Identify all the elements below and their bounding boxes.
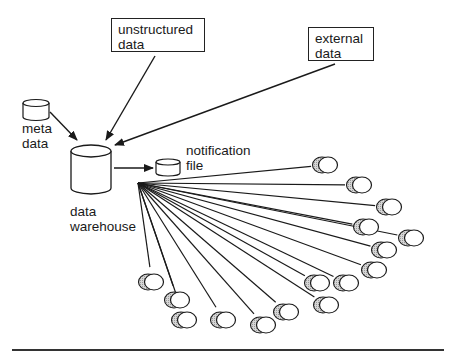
disk-pair-icon (211, 312, 236, 328)
disk-pair-icon (362, 262, 387, 278)
data-warehouse-label: data warehouse (70, 204, 136, 234)
external-data-box: external data (308, 27, 374, 61)
disk-pair-icon (399, 230, 424, 246)
disk-pair-icon (372, 242, 397, 258)
disk-pair-icon (251, 317, 276, 333)
arrow-unstructured-to-warehouse (106, 56, 155, 140)
disk-pair-icon (139, 274, 164, 290)
meta-data-cylinder-icon (23, 100, 49, 121)
diagram-canvas (0, 0, 452, 353)
disk-pair-icon (305, 275, 330, 291)
notification-file-label: notification file (186, 143, 251, 173)
external-data-label: external data (309, 28, 373, 61)
fanout-line (138, 183, 150, 267)
data-warehouse-cylinder-icon (71, 145, 111, 194)
bottom-divider (12, 349, 444, 351)
unstructured-data-box: unstructured data (111, 18, 205, 52)
disk-pair-icon (354, 219, 379, 235)
fanout-line (138, 183, 361, 265)
arrow-external-to-warehouse (115, 64, 335, 145)
disk-pair-icon (165, 292, 190, 308)
notification-file-cylinder-icon (156, 159, 180, 176)
disk-pair-icon (172, 312, 197, 328)
fanout-line (138, 183, 345, 185)
disk-pair-icon (334, 275, 359, 291)
unstructured-data-label: unstructured data (112, 19, 204, 52)
disk-pair-icon (313, 157, 338, 173)
fanout-line (138, 183, 371, 246)
disk-pair-icon (347, 177, 372, 193)
disk-pair-icon (274, 304, 299, 320)
arrow-meta-to-warehouse (50, 112, 77, 140)
meta-data-label: meta data (22, 121, 52, 151)
disk-pair-icon (377, 199, 402, 215)
disk-pair-icon (314, 297, 339, 313)
